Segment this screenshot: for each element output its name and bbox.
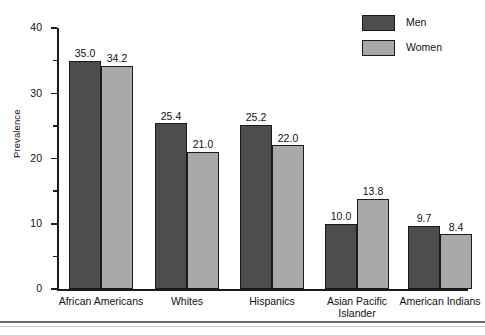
bar-men: 25.4 [155,123,187,289]
y-tick-major: 10 [51,223,57,225]
bar-group: 9.78.4 [408,28,472,289]
bar-value-label: 25.4 [161,111,181,122]
y-tick-minor [53,125,57,127]
category-label: American Indians [385,296,485,308]
bar-value-label: 35.0 [75,48,95,59]
bar-women: 13.8 [357,199,389,289]
bar-value-label: 13.8 [363,186,383,197]
x-axis-line [57,289,468,291]
y-tick-minor [53,256,57,258]
bar-group: 25.222.0 [240,28,304,289]
page-rule [0,321,485,323]
bar-women: 21.0 [187,152,219,289]
chart-legend: MenWomen [362,14,442,64]
plot-area: 010203040 35.034.225.421.025.222.010.013… [57,28,468,289]
y-tick-label: 10 [30,218,42,229]
y-tick-minor [53,190,57,192]
y-tick-major: 40 [51,27,57,29]
bar-men: 9.7 [408,226,440,289]
bar-women: 34.2 [101,66,133,289]
y-tick-label: 40 [30,22,42,33]
bar-group: 35.034.2 [69,28,133,289]
y-tick-major: 0 [51,288,57,290]
y-tick-minor [53,60,57,62]
bar-value-label: 34.2 [107,53,127,64]
y-tick-label: 30 [30,87,42,98]
legend-swatch [362,15,395,31]
bar-men: 25.2 [240,125,272,289]
bar-value-label: 8.4 [449,222,464,233]
bar-women: 22.0 [272,145,304,289]
legend-item: Women [362,39,442,56]
bar-value-label: 25.2 [246,112,266,123]
y-tick-major: 30 [51,93,57,95]
y-tick-label: 0 [36,283,42,294]
page-rule-shadow [0,326,485,327]
y-axis-line [57,28,59,289]
bar-group: 25.421.0 [155,28,219,289]
legend-swatch [362,40,395,56]
bar-men: 10.0 [325,224,357,289]
bar-value-label: 10.0 [331,211,351,222]
bar-men: 35.0 [69,61,101,289]
bar-group: 10.013.8 [325,28,389,289]
y-axis-title: Prevalence [11,109,22,158]
bar-value-label: 21.0 [193,139,213,150]
y-tick-major: 20 [51,158,57,160]
bar-chart-figure: Prevalence 010203040 35.034.225.421.025.… [0,0,485,335]
y-tick-label: 20 [30,153,42,164]
bar-value-label: 22.0 [278,133,298,144]
bar-women: 8.4 [440,234,472,289]
legend-label: Women [406,42,442,53]
bar-value-label: 9.7 [417,213,432,224]
legend-item: Men [362,14,442,31]
legend-label: Men [406,17,426,28]
